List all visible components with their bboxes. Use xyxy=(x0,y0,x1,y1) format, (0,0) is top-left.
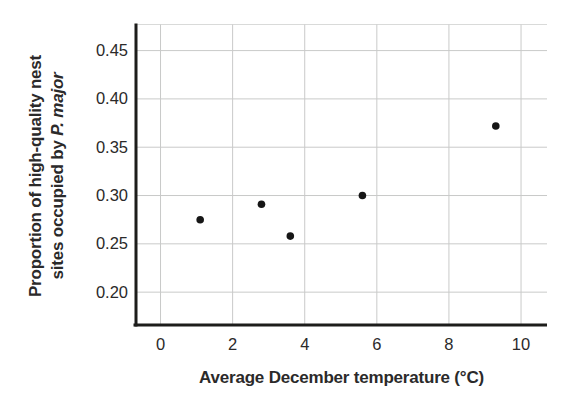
data-point xyxy=(258,200,266,208)
x-tick-label: 4 xyxy=(300,335,309,353)
x-tick-label: 8 xyxy=(444,335,453,353)
plot-area: 0.200.250.300.350.400.450246810 xyxy=(0,0,570,409)
x-axis-title: Average December temperature (°C) xyxy=(136,368,547,387)
y-axis-title-line2: sites occupied by P. major xyxy=(46,55,68,297)
x-tick-label: 6 xyxy=(372,335,381,353)
data-point xyxy=(196,216,204,224)
y-axis-title: Proportion of high-quality nest sites oc… xyxy=(25,55,68,297)
y-tick-label: 0.20 xyxy=(96,283,128,301)
data-point xyxy=(359,192,367,200)
y-tick-label: 0.25 xyxy=(96,234,128,252)
figure-canvas: 0.200.250.300.350.400.450246810 Proporti… xyxy=(0,0,570,409)
x-tick-label: 2 xyxy=(228,335,237,353)
x-tick-label: 10 xyxy=(512,335,530,353)
y-tick-label: 0.30 xyxy=(96,186,128,204)
y-tick-label: 0.40 xyxy=(96,89,128,107)
data-point xyxy=(287,232,295,240)
y-tick-label: 0.45 xyxy=(96,41,128,59)
species-name: P. major xyxy=(47,72,66,135)
y-tick-label: 0.35 xyxy=(96,138,128,156)
y-axis-title-line1: Proportion of high-quality nest xyxy=(25,55,47,297)
y-axis-title-line2-text: sites occupied by xyxy=(47,136,66,280)
x-tick-label: 0 xyxy=(156,335,165,353)
data-point xyxy=(492,122,500,130)
